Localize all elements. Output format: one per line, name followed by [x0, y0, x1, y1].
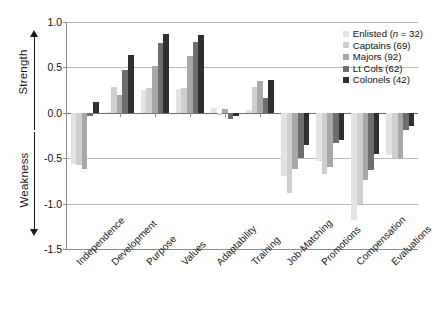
y-axis-tick-label: -1.0	[44, 198, 62, 210]
bar	[198, 35, 204, 113]
legend-item: Majors (92)	[343, 51, 423, 63]
legend-item: Enlisted (n = 32)	[343, 28, 423, 40]
x-axis-tick-mark	[120, 113, 121, 117]
legend-label: Captains (69)	[353, 40, 411, 52]
bar	[304, 113, 310, 146]
gridline	[67, 22, 418, 23]
x-axis-tick-mark	[225, 113, 226, 117]
bar	[128, 55, 134, 113]
x-axis-tick-mark	[155, 113, 156, 117]
y-axis-tick-mark	[63, 22, 67, 23]
legend-item: Captains (69)	[343, 40, 423, 52]
bar	[82, 113, 88, 169]
legend-item: Lt Cols (62)	[343, 63, 423, 75]
chart-page: Strength Weakness 1.00.50.0-0.5-1.0-1.5 …	[0, 0, 435, 319]
bar	[87, 113, 93, 117]
y-axis-tick-mark	[63, 67, 67, 68]
x-axis-labels: IndependenceDevelopmentPurposeValuesAdap…	[0, 252, 435, 318]
legend-label: Majors (92)	[353, 51, 402, 63]
x-axis-tick-mark	[190, 113, 191, 117]
legend-item: Colonels (42)	[343, 74, 423, 86]
legend-label: Enlisted (n = 32)	[353, 28, 423, 40]
bar	[268, 80, 274, 113]
y-axis-tick-mark	[63, 249, 67, 250]
y-axis-tick-label: 1.0	[47, 16, 62, 28]
legend: Enlisted (n = 32)Captains (69)Majors (92…	[341, 26, 425, 88]
legend-label: Lt Cols (62)	[353, 63, 403, 75]
bar	[233, 113, 239, 116]
legend-swatch	[343, 31, 349, 37]
bar	[409, 113, 415, 126]
y-axis-tick-mark	[63, 204, 67, 205]
weakness-axis-label: Weakness	[18, 141, 30, 219]
bar	[374, 113, 380, 154]
arrow-down-icon	[30, 132, 39, 236]
y-axis-tick-mark	[63, 158, 67, 159]
legend-swatch	[343, 77, 349, 83]
legend-swatch	[343, 42, 349, 48]
bar	[217, 113, 223, 115]
legend-swatch	[343, 66, 349, 72]
bar	[93, 102, 99, 113]
bar	[339, 113, 345, 140]
arrow-up-icon	[30, 30, 39, 130]
legend-label: Colonels (42)	[353, 74, 410, 86]
y-axis-tick-label: -0.5	[44, 152, 62, 164]
legend-swatch	[343, 54, 349, 60]
y-axis-tick-label: 0.5	[47, 61, 62, 73]
y-axis-side-labels: Strength Weakness	[0, 14, 46, 254]
strength-axis-label: Strength	[17, 36, 29, 108]
y-axis-tick-label: 0.0	[47, 107, 62, 119]
bar	[163, 34, 169, 113]
x-axis-tick-mark	[260, 113, 261, 117]
y-axis-tick-mark	[63, 113, 67, 114]
gridline	[67, 204, 418, 205]
